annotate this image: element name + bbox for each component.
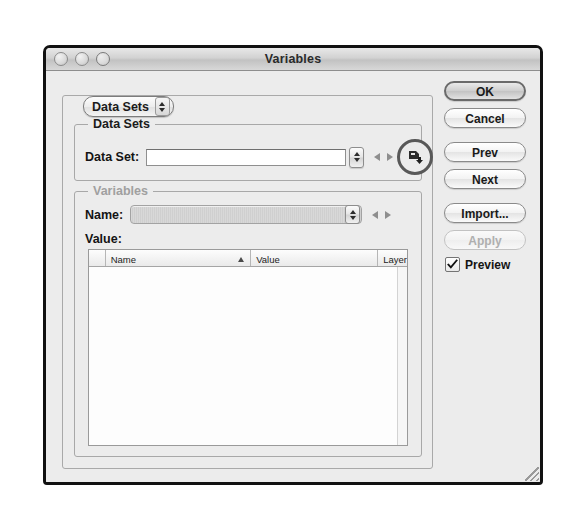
data-set-input[interactable] bbox=[146, 149, 346, 166]
stepper-down-icon bbox=[354, 158, 360, 162]
checkmark-icon bbox=[447, 259, 458, 270]
data-set-stepper[interactable] bbox=[349, 147, 364, 168]
variable-name-combobox[interactable] bbox=[130, 205, 362, 224]
table-header-row: Name Value Layer bbox=[89, 250, 407, 267]
stepper-up-icon bbox=[350, 210, 356, 214]
panel-container: Data Sets Data Set: bbox=[62, 95, 433, 469]
variable-next-icon[interactable] bbox=[385, 211, 391, 219]
sort-ascending-triangle-icon bbox=[238, 257, 244, 262]
resize-grip[interactable] bbox=[525, 467, 539, 481]
preview-checkbox[interactable] bbox=[445, 257, 460, 272]
new-data-set-button[interactable] bbox=[397, 139, 433, 175]
data-set-prev-icon[interactable] bbox=[374, 153, 380, 161]
table-header-layer[interactable]: Layer bbox=[378, 250, 407, 266]
table-body-empty bbox=[89, 267, 407, 445]
panel-popup-container: Data Sets bbox=[79, 96, 178, 117]
next-button[interactable]: Next bbox=[444, 169, 526, 189]
table-header-value-label: Value bbox=[256, 254, 280, 265]
table-header-spacer bbox=[89, 250, 106, 266]
variable-name-row: Name: bbox=[85, 205, 391, 224]
window-titlebar[interactable]: Variables bbox=[46, 48, 540, 71]
variable-nav-arrows bbox=[372, 211, 391, 219]
stepper-down-icon bbox=[350, 216, 356, 220]
variable-name-stepper[interactable] bbox=[345, 205, 360, 224]
dialog-body: Data Sets Data Set: bbox=[46, 71, 540, 482]
data-sets-group-title: Data Sets bbox=[88, 117, 155, 131]
panel-popup-menu[interactable]: Data Sets bbox=[83, 96, 174, 117]
table-header-value[interactable]: Value bbox=[251, 250, 378, 266]
window-title: Variables bbox=[46, 52, 540, 66]
data-set-row: Data Set: bbox=[85, 139, 433, 175]
import-button[interactable]: Import... bbox=[444, 203, 526, 223]
ok-button[interactable]: OK bbox=[444, 81, 526, 101]
up-down-arrows-icon bbox=[155, 97, 170, 116]
variable-prev-icon[interactable] bbox=[372, 211, 378, 219]
data-set-label: Data Set: bbox=[85, 150, 139, 164]
table-header-name-label: Name bbox=[111, 254, 136, 265]
variable-value-label: Value: bbox=[85, 232, 122, 246]
stepper-up-icon bbox=[354, 152, 360, 156]
data-set-next-icon[interactable] bbox=[387, 153, 393, 161]
cancel-button[interactable]: Cancel bbox=[444, 108, 526, 128]
column-divider bbox=[442, 71, 443, 482]
variables-table: Name Value Layer bbox=[88, 249, 408, 446]
variables-group-title: Variables bbox=[88, 184, 153, 198]
popup-down-icon bbox=[159, 108, 165, 112]
panel-popup-label: Data Sets bbox=[92, 100, 149, 114]
variable-name-label: Name: bbox=[85, 208, 123, 222]
table-header-layer-label: Layer bbox=[383, 254, 407, 265]
new-data-set-icon bbox=[407, 149, 424, 166]
variable-value-row: Value: bbox=[85, 232, 136, 246]
preview-checkbox-row[interactable]: Preview bbox=[445, 257, 532, 272]
preview-label: Preview bbox=[465, 258, 510, 272]
dialog-button-column: OK Cancel Prev Next Import... Apply Prev… bbox=[444, 81, 532, 272]
prev-button[interactable]: Prev bbox=[444, 142, 526, 162]
popup-up-icon bbox=[159, 102, 165, 106]
variables-dialog-window: Variables Data Sets Data Set: bbox=[43, 45, 543, 485]
table-vertical-scrollbar[interactable] bbox=[397, 267, 407, 445]
variables-group: Variables Name: bbox=[74, 191, 422, 457]
left-content-column: Data Sets Data Set: bbox=[58, 82, 433, 470]
data-sets-group: Data Sets Data Set: bbox=[74, 124, 422, 181]
table-header-name[interactable]: Name bbox=[106, 250, 251, 266]
apply-button[interactable]: Apply bbox=[444, 230, 526, 250]
data-set-nav-arrows bbox=[374, 153, 393, 161]
